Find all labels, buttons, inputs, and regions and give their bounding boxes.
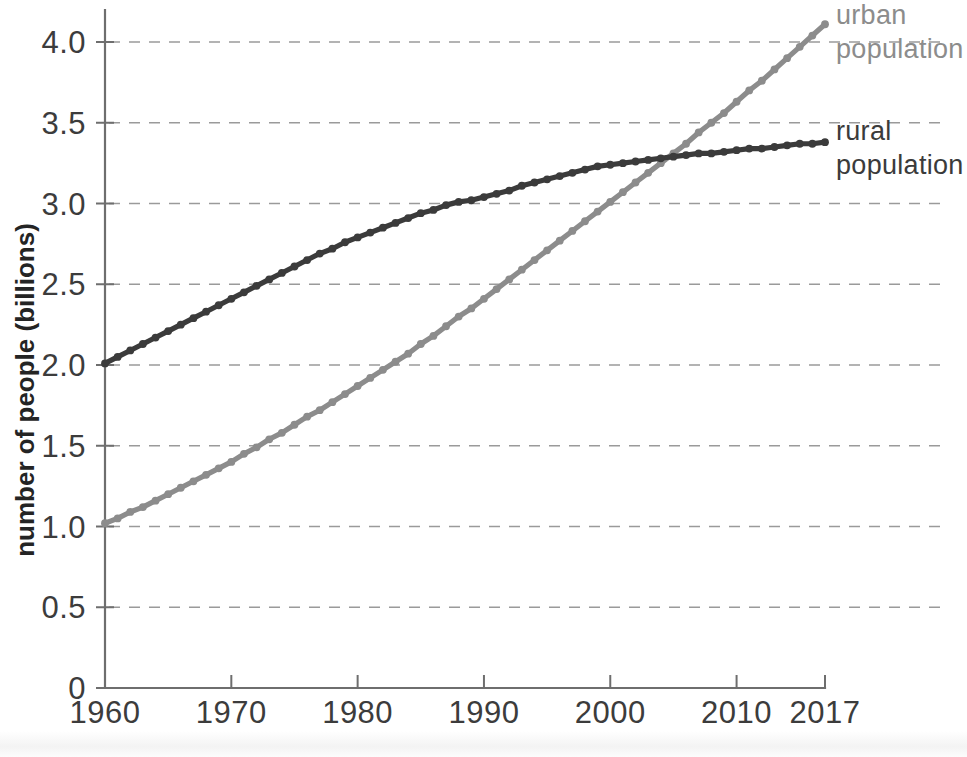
data-point-marker bbox=[682, 151, 690, 159]
data-point-marker bbox=[568, 169, 576, 177]
data-point-marker bbox=[126, 347, 134, 355]
legend-label-rural-line1: rural bbox=[836, 116, 892, 146]
axes bbox=[105, 10, 825, 688]
data-point-marker bbox=[467, 196, 475, 204]
data-point-marker bbox=[670, 153, 678, 161]
data-point-marker bbox=[291, 421, 299, 429]
data-point-marker bbox=[404, 214, 412, 222]
data-point-marker bbox=[278, 269, 286, 277]
data-point-marker bbox=[518, 266, 526, 274]
data-point-marker bbox=[720, 148, 728, 156]
data-point-marker bbox=[139, 503, 147, 511]
data-point-marker bbox=[518, 182, 526, 190]
data-point-marker bbox=[404, 350, 412, 358]
data-point-marker bbox=[227, 295, 235, 303]
data-point-marker bbox=[695, 129, 703, 137]
data-point-marker bbox=[808, 140, 816, 148]
data-point-marker bbox=[733, 146, 741, 154]
data-point-marker bbox=[253, 443, 261, 451]
data-point-marker bbox=[202, 471, 210, 479]
data-point-marker bbox=[783, 141, 791, 149]
data-point-marker bbox=[531, 256, 539, 264]
gridlines bbox=[109, 42, 940, 607]
data-point-marker bbox=[316, 406, 324, 414]
data-point-marker bbox=[771, 66, 779, 74]
data-point-marker bbox=[644, 156, 652, 164]
data-point-marker bbox=[531, 179, 539, 187]
data-point-marker bbox=[392, 219, 400, 227]
data-point-marker bbox=[783, 54, 791, 62]
data-point-marker bbox=[632, 179, 640, 187]
data-point-marker bbox=[177, 484, 185, 492]
data-point-marker bbox=[808, 32, 816, 40]
data-point-marker bbox=[556, 237, 564, 245]
data-point-marker bbox=[821, 20, 829, 28]
data-point-marker bbox=[354, 382, 362, 390]
y-tick-label: 0 bbox=[68, 671, 86, 706]
population-line-chart: 1960197019801990200020102017 00.51.01.52… bbox=[0, 0, 967, 757]
data-point-marker bbox=[265, 435, 273, 443]
data-point-marker bbox=[455, 313, 463, 321]
data-point-marker bbox=[543, 246, 551, 254]
data-point-marker bbox=[568, 227, 576, 235]
data-point-marker bbox=[253, 282, 261, 290]
data-point-marker bbox=[467, 305, 475, 313]
legend-label-urban-line1: urban bbox=[836, 0, 907, 30]
data-point-marker bbox=[505, 276, 513, 284]
data-point-marker bbox=[594, 162, 602, 170]
data-point-marker bbox=[493, 190, 501, 198]
y-tick-label: 4.0 bbox=[41, 25, 86, 60]
data-point-marker bbox=[733, 98, 741, 106]
data-point-marker bbox=[316, 250, 324, 258]
data-point-marker bbox=[278, 429, 286, 437]
data-point-marker bbox=[606, 198, 614, 206]
data-point-marker bbox=[328, 398, 336, 406]
data-point-marker bbox=[328, 245, 336, 253]
data-point-marker bbox=[215, 464, 223, 472]
legend-label-rural-line2: population bbox=[836, 150, 964, 180]
chart-canvas: 1960197019801990200020102017 00.51.01.52… bbox=[0, 0, 967, 757]
data-point-marker bbox=[303, 256, 311, 264]
data-point-marker bbox=[543, 175, 551, 183]
data-point-marker bbox=[366, 229, 374, 237]
data-point-marker bbox=[707, 119, 715, 127]
data-point-marker bbox=[227, 458, 235, 466]
data-point-marker bbox=[745, 145, 753, 153]
y-tick-label: 1.0 bbox=[41, 510, 86, 545]
y-tick-label: 2.0 bbox=[41, 348, 86, 383]
data-point-marker bbox=[505, 187, 513, 195]
data-point-marker bbox=[152, 334, 160, 342]
y-tick-label: 1.5 bbox=[41, 429, 86, 464]
data-point-marker bbox=[796, 43, 804, 51]
series-line-urban bbox=[105, 24, 825, 523]
data-point-marker bbox=[556, 172, 564, 180]
data-point-marker bbox=[619, 159, 627, 167]
x-tick-label: 1980 bbox=[322, 695, 393, 730]
data-point-marker bbox=[379, 366, 387, 374]
data-point-marker bbox=[430, 206, 438, 214]
data-point-marker bbox=[606, 161, 614, 169]
series-lines bbox=[101, 20, 829, 527]
data-point-marker bbox=[303, 413, 311, 421]
data-point-marker bbox=[581, 217, 589, 225]
series-line-rural bbox=[105, 142, 825, 363]
y-axis-title: number of people (billions) bbox=[10, 223, 40, 557]
data-point-marker bbox=[240, 450, 248, 458]
data-point-marker bbox=[417, 209, 425, 217]
x-axis-ticks: 1960197019801990200020102017 bbox=[70, 675, 861, 730]
y-tick-label: 0.5 bbox=[41, 590, 86, 625]
data-point-marker bbox=[480, 295, 488, 303]
data-point-marker bbox=[644, 169, 652, 177]
x-tick-label: 1970 bbox=[196, 695, 267, 730]
data-point-marker bbox=[152, 497, 160, 505]
data-point-marker bbox=[417, 340, 425, 348]
data-point-marker bbox=[240, 288, 248, 296]
data-point-marker bbox=[341, 390, 349, 398]
legend-label-urban-line2: population bbox=[836, 34, 964, 64]
data-point-marker bbox=[215, 301, 223, 309]
data-point-marker bbox=[379, 224, 387, 232]
data-point-marker bbox=[771, 143, 779, 151]
y-tick-label: 3.0 bbox=[41, 187, 86, 222]
data-point-marker bbox=[619, 188, 627, 196]
data-point-marker bbox=[442, 201, 450, 209]
